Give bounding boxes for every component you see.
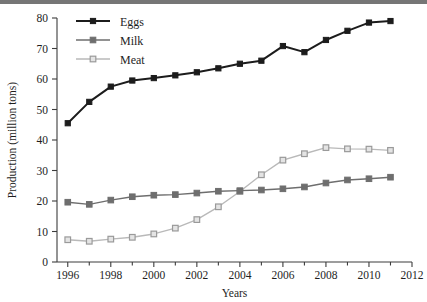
series-line-eggs (68, 21, 391, 123)
chart-container: 0102030405060708019961998200020022004200… (0, 0, 427, 302)
legend-marker-eggs (90, 18, 95, 23)
data-point-meat-1997 (86, 238, 92, 244)
data-point-eggs-2005 (259, 58, 264, 63)
data-point-milk-1997 (86, 202, 92, 208)
data-point-milk-1996 (65, 199, 71, 205)
data-point-meat-2001 (173, 225, 179, 231)
data-point-meat-2010 (366, 146, 372, 152)
data-point-meat-2007 (302, 151, 308, 157)
data-point-milk-2003 (216, 188, 222, 194)
data-point-meat-1998 (108, 236, 114, 242)
legend-label-eggs: Eggs (120, 15, 144, 29)
line-chart: 0102030405060708019961998200020022004200… (0, 0, 427, 302)
data-point-milk-2001 (173, 192, 179, 198)
data-point-meat-2006 (280, 157, 286, 163)
x-tick-label: 2008 (314, 269, 337, 281)
x-tick-label: 2002 (185, 269, 208, 281)
data-point-meat-1999 (130, 234, 136, 240)
x-tick-label: 2004 (228, 269, 251, 281)
data-point-meat-2011 (388, 148, 394, 154)
legend-label-meat: Meat (120, 53, 145, 67)
data-point-eggs-2008 (323, 37, 328, 42)
data-point-eggs-2007 (302, 50, 307, 55)
data-point-meat-1996 (65, 237, 71, 243)
data-point-eggs-2001 (173, 73, 178, 78)
data-point-eggs-2000 (151, 75, 156, 80)
y-tick-label: 60 (37, 73, 49, 85)
series-milk (65, 174, 393, 207)
data-point-milk-2005 (259, 187, 265, 193)
data-point-milk-2009 (345, 177, 351, 183)
legend-label-milk: Milk (120, 34, 143, 48)
legend-item-eggs[interactable]: Eggs (76, 15, 144, 29)
y-tick-label: 70 (37, 43, 49, 55)
y-tick-label: 50 (37, 104, 49, 116)
data-point-meat-2002 (194, 217, 200, 223)
data-point-milk-1998 (108, 197, 114, 203)
data-point-milk-2002 (194, 190, 200, 196)
series-line-meat (68, 148, 391, 242)
y-tick-label: 0 (42, 256, 48, 268)
data-point-meat-2008 (323, 145, 329, 151)
data-point-eggs-2010 (366, 20, 371, 25)
data-point-eggs-2009 (345, 28, 350, 33)
data-point-eggs-2004 (237, 61, 242, 66)
legend-marker-milk (90, 37, 96, 43)
legend: EggsMilkMeat (76, 15, 145, 67)
x-axis-title: Years (222, 287, 248, 299)
data-point-milk-2010 (366, 176, 372, 182)
data-point-milk-2006 (280, 186, 286, 192)
data-point-eggs-2003 (216, 66, 221, 71)
y-tick-label: 80 (37, 12, 49, 24)
data-point-eggs-2006 (280, 43, 285, 48)
x-tick-label: 2012 (401, 269, 424, 281)
x-tick-label: 1996 (56, 269, 79, 281)
data-point-eggs-2002 (194, 70, 199, 75)
legend-item-milk[interactable]: Milk (76, 34, 143, 48)
legend-item-meat[interactable]: Meat (76, 53, 145, 67)
x-tick-label: 2000 (142, 269, 165, 281)
data-point-eggs-1996 (65, 121, 70, 126)
x-tick-label: 1998 (99, 269, 122, 281)
x-tick-label: 2006 (271, 269, 294, 281)
data-point-milk-2007 (302, 184, 308, 190)
data-point-milk-2011 (388, 174, 394, 180)
data-point-milk-2000 (151, 192, 157, 198)
legend-marker-meat (90, 56, 96, 62)
data-point-eggs-1998 (108, 84, 113, 89)
data-point-eggs-1997 (87, 99, 92, 104)
series-eggs (65, 18, 393, 125)
y-tick-label: 30 (37, 165, 49, 177)
data-point-meat-2000 (151, 231, 157, 237)
data-point-meat-2003 (216, 204, 222, 210)
data-point-milk-1999 (130, 194, 136, 200)
y-tick-label: 10 (37, 226, 49, 238)
data-point-milk-2004 (237, 188, 243, 194)
y-axis-title: Production (million tons) (6, 82, 19, 198)
data-point-milk-2008 (323, 180, 329, 186)
series-meat (65, 145, 393, 244)
y-tick-label: 40 (37, 134, 49, 146)
data-point-eggs-2011 (388, 18, 393, 23)
data-point-eggs-1999 (130, 78, 135, 83)
data-point-meat-2005 (259, 172, 265, 178)
data-point-meat-2009 (345, 146, 351, 152)
y-tick-label: 20 (37, 195, 49, 207)
series-line-milk (68, 177, 391, 204)
x-tick-label: 2010 (357, 269, 380, 281)
